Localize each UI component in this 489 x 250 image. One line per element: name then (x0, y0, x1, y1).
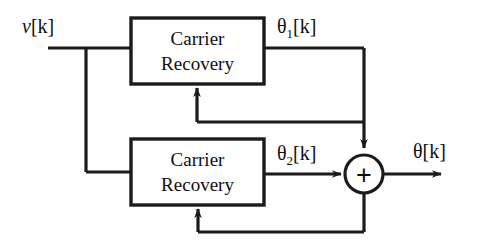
output-signal-label: θ[k] (413, 140, 446, 162)
theta2-signal-label: θ2[k] (277, 142, 316, 168)
theta1-signal-path (264, 48, 364, 148)
carrier-recovery-1-line2: Recovery (161, 53, 234, 74)
feedback-path-1 (197, 88, 364, 122)
carrier-recovery-2-line2: Recovery (161, 174, 234, 195)
output-signal-var: θ (413, 140, 423, 162)
theta1-signal-index: [k] (293, 15, 316, 37)
carrier-recovery-1-line1: Carrier (171, 28, 225, 49)
block-diagram: Carrier Recovery Carrier Recovery + (0, 0, 489, 250)
summing-junction: + (345, 155, 383, 193)
output-signal-index: [k] (423, 140, 446, 162)
carrier-recovery-block-2: Carrier Recovery (131, 139, 264, 205)
theta2-signal-var: θ (277, 142, 287, 164)
diagram-canvas: Carrier Recovery Carrier Recovery + (0, 0, 489, 250)
theta1-signal-var: θ (277, 15, 287, 37)
input-signal-index: [k] (31, 15, 54, 37)
input-signal-var: v (22, 15, 31, 37)
carrier-recovery-2-line1: Carrier (171, 149, 225, 170)
input-signal-path (48, 48, 131, 172)
theta1-signal-label: θ1[k] (277, 15, 316, 41)
carrier-recovery-block-1: Carrier Recovery (131, 18, 264, 84)
input-signal-label: v[k] (22, 15, 54, 37)
theta2-signal-index: [k] (293, 142, 316, 164)
summing-junction-operator: + (356, 160, 372, 190)
